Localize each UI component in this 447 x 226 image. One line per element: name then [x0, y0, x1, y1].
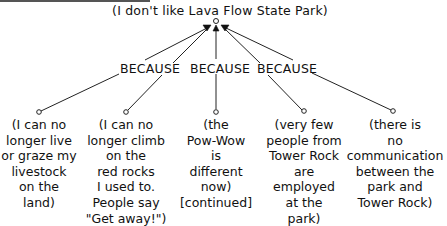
because-label-1: BECAUSE — [120, 61, 180, 76]
reason-node-circle — [37, 110, 42, 115]
reason-node-circle — [214, 110, 219, 115]
root-claim: (I don't like Lava Flow State Park) — [0, 3, 440, 18]
reason-5: (there is no communication between the p… — [343, 117, 447, 211]
because-label-3: BECAUSE — [257, 61, 317, 76]
reason-3: (the Pow-Wow is different now) [continue… — [166, 117, 266, 211]
link-reason-1 — [41, 74, 119, 111]
reason-node-circle — [302, 109, 307, 114]
link-because-1-to-root-b — [145, 28, 207, 60]
reason-2: (I can no longer climb on the red rocks … — [76, 117, 176, 226]
link-because-1-to-root-a — [173, 29, 207, 63]
link-reason-2 — [128, 75, 162, 110]
reason-node-circle — [124, 110, 129, 115]
link-because-3-to-root-a — [225, 29, 260, 63]
because-label-2: BECAUSE — [190, 61, 250, 76]
link-reason-4 — [268, 75, 302, 110]
link-reason-5 — [312, 73, 391, 110]
root-node-circle — [214, 19, 219, 24]
arrowhead-icon — [221, 25, 229, 31]
reason-node-circle — [391, 109, 396, 114]
arrowhead-icon — [213, 25, 219, 31]
link-because-3-to-root-b — [226, 28, 293, 60]
reason-4: (very few people from Tower Rock are emp… — [254, 117, 354, 226]
arrowhead-icon — [203, 25, 211, 31]
